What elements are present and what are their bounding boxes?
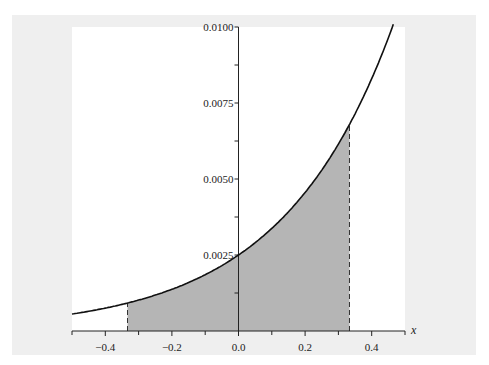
x-tick-label: 0.4 <box>365 341 379 353</box>
x-tick-label: −0.2 <box>162 341 182 353</box>
x-axis-label: x <box>410 323 417 337</box>
y-tick-label: 0.0075 <box>203 97 234 109</box>
y-tick-label: 0.0100 <box>203 21 234 33</box>
y-tick-label: 0.0025 <box>203 249 234 261</box>
x-tick-label: 0.0 <box>232 341 246 353</box>
x-axis-ticks: −0.4−0.20.00.20.4 <box>72 331 405 353</box>
exponential-area-chart: −0.4−0.20.00.20.4 0.00250.00500.00750.01… <box>0 0 489 365</box>
y-tick-label: 0.0050 <box>203 173 234 185</box>
x-tick-label: −0.4 <box>95 341 115 353</box>
x-tick-label: 0.2 <box>298 341 312 353</box>
